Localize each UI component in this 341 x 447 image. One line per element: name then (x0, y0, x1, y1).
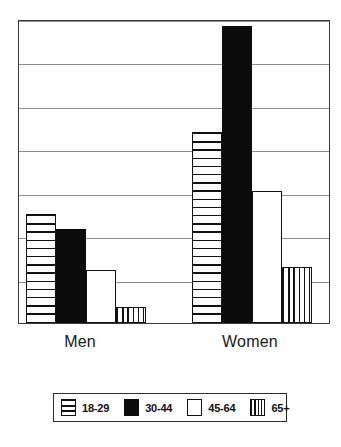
chart-legend: 18-2930-4445-6465+ (53, 393, 287, 422)
bar-men-18to29 (26, 214, 56, 323)
legend-label: 18-29 (82, 402, 109, 414)
plot-area (18, 20, 330, 324)
bar-men-30to44 (56, 229, 86, 323)
bar-women-65plus (282, 267, 312, 323)
bar-women-45to64 (252, 191, 282, 323)
bar-men-45to64 (86, 270, 116, 323)
legend-swatch-icon (124, 399, 139, 416)
legend-swatch-icon (187, 399, 202, 416)
legend-swatch-icon (61, 399, 76, 416)
legend-item-45to64[interactable]: 45-64 (187, 399, 235, 416)
legend-label: 45-64 (208, 402, 235, 414)
bar-men-65plus (116, 307, 146, 323)
bar-women-30to44 (222, 26, 252, 323)
legend-label: 30-44 (145, 402, 172, 414)
x-axis-category-label-women: Women (205, 333, 295, 351)
legend-item-18to29[interactable]: 18-29 (61, 399, 109, 416)
legend-item-30to44[interactable]: 30-44 (124, 399, 172, 416)
legend-item-65plus[interactable]: 65+ (250, 399, 289, 416)
bar-women-18to29 (192, 132, 222, 323)
x-axis-category-label-men: Men (40, 333, 120, 351)
legend-swatch-icon (250, 399, 265, 416)
bars-container (19, 21, 329, 323)
legend-label: 65+ (271, 402, 289, 414)
bar-chart-figure: Men Women 18-2930-4445-6465+ (0, 0, 341, 447)
